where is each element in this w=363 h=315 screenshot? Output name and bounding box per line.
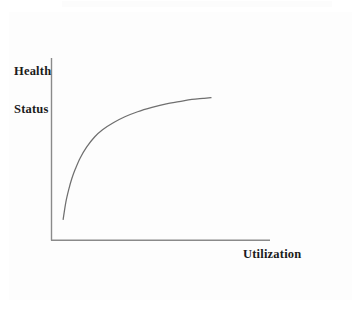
y-axis-label-line1: Health xyxy=(14,65,51,78)
plot-svg xyxy=(0,0,363,315)
x-axis-label: Utilization xyxy=(243,248,301,261)
y-axis-label: Health Status xyxy=(14,40,51,140)
health-status-curve xyxy=(63,98,211,220)
chart-figure-page: Health Status Utilization xyxy=(0,0,363,315)
y-axis-label-line2: Status xyxy=(14,103,51,116)
plot-area xyxy=(0,0,363,315)
